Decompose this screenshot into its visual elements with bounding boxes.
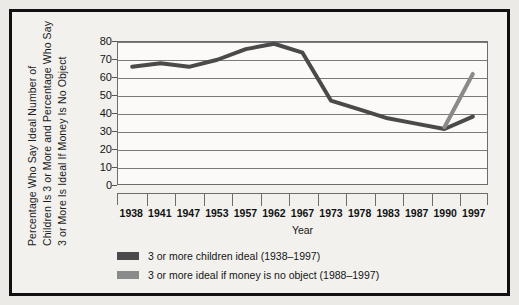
y-tick-label-80: 80 (86, 35, 112, 47)
plot-area (117, 41, 488, 185)
x-axis-tick-band (117, 193, 488, 205)
x-tick-label-1973: 1973 (319, 207, 342, 219)
legend-swatch-children-ideal (117, 252, 139, 260)
x-tick-mark-5 (261, 194, 262, 206)
x-tick-mark-1 (147, 194, 148, 206)
y-tick-label-40: 40 (86, 107, 112, 119)
y-tick-mark-0 (112, 185, 117, 186)
y-tick-label-0: 0 (86, 179, 112, 191)
x-axis-title: Year (117, 224, 488, 236)
x-tick-label-1962: 1962 (262, 207, 285, 219)
x-tick-mark-10 (403, 194, 404, 206)
figure-inner: Percentage Who Say Ideal Number of Child… (12, 12, 507, 293)
x-tick-label-1941: 1941 (148, 207, 171, 219)
x-tick-label-1957: 1957 (234, 207, 257, 219)
series-line-0 (132, 44, 473, 129)
y-axis-title-line-1: Percentage Who Say Ideal Number of (26, 66, 38, 246)
legend-label-children-ideal: 3 or more children ideal (1938–1997) (148, 250, 320, 262)
x-tick-label-1953: 1953 (205, 207, 228, 219)
y-tick-label-10: 10 (86, 161, 112, 173)
y-axis-title: Percentage Who Say Ideal Number of Child… (24, 12, 82, 252)
x-tick-label-1978: 1978 (348, 207, 371, 219)
legend-swatch-money-no-object (117, 271, 139, 279)
x-tick-label-1990: 1990 (434, 207, 457, 219)
legend-label-money-no-object: 3 or more ideal if money is no object (1… (148, 269, 379, 281)
y-tick-label-20: 20 (86, 143, 112, 155)
x-tick-label-1947: 1947 (177, 207, 200, 219)
x-tick-label-1983: 1983 (376, 207, 399, 219)
x-tick-mark-12 (460, 194, 461, 206)
x-tick-mark-7 (318, 194, 319, 206)
x-tick-label-1987: 1987 (405, 207, 428, 219)
legend-item-children-ideal: 3 or more children ideal (1938–1997) (117, 248, 497, 264)
x-tick-mark-6 (289, 194, 290, 206)
x-tick-label-1967: 1967 (291, 207, 314, 219)
y-tick-label-60: 60 (86, 71, 112, 83)
x-tick-mark-4 (232, 194, 233, 206)
y-tick-label-50: 50 (86, 89, 112, 101)
x-tick-mark-2 (175, 194, 176, 206)
series-lines (118, 42, 487, 184)
y-axis-title-line-3: 3 or More Is Ideal If Money Is No Object (56, 56, 68, 246)
x-tick-label-1997: 1997 (462, 207, 485, 219)
figure-frame: Percentage Who Say Ideal Number of Child… (9, 9, 510, 296)
legend-item-money-no-object: 3 or more ideal if money is no object (1… (117, 267, 497, 283)
x-tick-label-1938: 1938 (120, 207, 143, 219)
y-tick-label-70: 70 (86, 53, 112, 65)
chart-legend: 3 or more children ideal (1938–1997) 3 o… (117, 248, 497, 286)
x-tick-mark-8 (346, 194, 347, 206)
x-tick-mark-3 (204, 194, 205, 206)
x-axis-tick-labels: 1938194119471953195719621967197319781983… (117, 207, 488, 221)
x-tick-mark-9 (375, 194, 376, 206)
y-axis-tick-labels: 01020304050607080 (82, 41, 112, 185)
x-tick-mark-11 (432, 194, 433, 206)
y-tick-label-30: 30 (86, 125, 112, 137)
y-axis-title-line-2: Children Is 3 or More and Percentage Who… (41, 21, 53, 246)
